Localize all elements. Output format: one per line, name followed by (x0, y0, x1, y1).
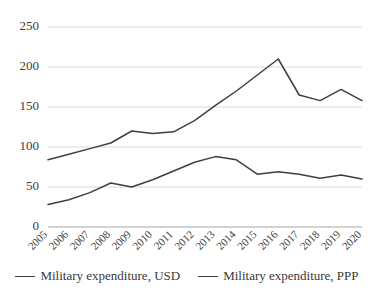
x-axis-tick-label: 2017 (277, 228, 301, 252)
x-axis-tick-label: 2013 (193, 228, 217, 252)
series-line-usd (48, 157, 362, 205)
x-axis-tick-label: 2012 (172, 228, 196, 252)
legend-label-ppp: Military expenditure, PPP (223, 268, 358, 284)
x-axis-tick-label: 2019 (318, 228, 342, 252)
x-axis-tick-label: 2018 (298, 228, 322, 252)
x-axis-tick-label: 2008 (88, 228, 112, 252)
x-axis-tick-label: 2014 (214, 228, 238, 252)
x-axis-tick-label: 2015 (235, 228, 259, 252)
gridlines (48, 27, 362, 187)
plot-area: 050100150200250 200520062007200820092010… (0, 0, 374, 268)
y-axis-tick-label: 250 (20, 18, 40, 33)
x-axis-tick-label: 2010 (130, 228, 154, 252)
legend-item-ppp: Military expenditure, PPP (198, 268, 358, 284)
series-line-ppp (48, 59, 362, 160)
x-axis-tick-label: 2007 (67, 228, 91, 252)
y-axis-tick-label: 150 (20, 98, 40, 113)
y-axis-tick-label: 200 (20, 58, 40, 73)
x-axis-tick-label: 2006 (46, 228, 70, 252)
y-axis-tick-label: 50 (26, 178, 39, 193)
x-axis-tick-label: 2016 (256, 228, 280, 252)
line-chart: 050100150200250 200520062007200820092010… (0, 0, 374, 298)
legend-line-swatch-ppp (198, 276, 218, 277)
x-axis-tick-label: 2011 (151, 228, 175, 252)
chart-legend: Military expenditure, USD Military expen… (0, 268, 374, 284)
legend-item-usd: Military expenditure, USD (15, 268, 180, 284)
x-axis-tick-labels: 2005200620072008200920102011201220132014… (25, 228, 363, 252)
y-axis-tick-label: 100 (20, 138, 40, 153)
y-axis-tick-labels: 050100150200250 (20, 18, 40, 233)
x-axis-tick-label: 2009 (109, 228, 133, 252)
x-axis-tick-label: 2005 (25, 228, 49, 252)
legend-line-swatch-usd (15, 276, 35, 277)
legend-label-usd: Military expenditure, USD (40, 268, 180, 284)
data-series-group (48, 59, 362, 205)
x-axis-tick-label: 2020 (339, 228, 363, 252)
